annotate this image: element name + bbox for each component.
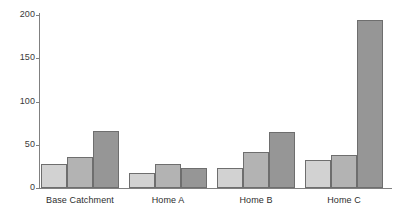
y-tick-mark <box>36 102 39 103</box>
y-tick-mark <box>36 188 39 189</box>
bar-group <box>217 13 295 188</box>
bar[interactable] <box>41 164 67 188</box>
bar-groups: Base CatchmentHome AHome BHome C <box>40 0 392 222</box>
bar[interactable] <box>181 168 207 188</box>
y-axis-tick-labels: 050100150200 <box>0 0 35 222</box>
y-tick-label: 0 <box>5 183 35 192</box>
bar[interactable] <box>243 152 269 188</box>
bar[interactable] <box>67 157 93 188</box>
bar[interactable] <box>217 168 243 188</box>
x-axis-category-label: Home C <box>279 196 409 205</box>
y-tick-mark <box>36 15 39 16</box>
bar-group-bars <box>305 13 383 188</box>
y-tick-mark <box>36 145 39 146</box>
bar[interactable] <box>331 155 357 188</box>
bar[interactable] <box>93 131 119 188</box>
bar[interactable] <box>269 132 295 188</box>
bar[interactable] <box>357 20 383 188</box>
y-tick-label: 50 <box>5 140 35 149</box>
bar[interactable] <box>129 173 155 188</box>
bar-group <box>129 13 207 188</box>
bar[interactable] <box>155 164 181 188</box>
bar-group <box>41 13 119 188</box>
bar-group-bars <box>129 13 207 188</box>
y-tick-label: 100 <box>5 97 35 106</box>
bar-chart: 050100150200 Base CatchmentHome AHome BH… <box>0 0 409 222</box>
bar-group-bars <box>217 13 295 188</box>
y-tick-mark <box>36 58 39 59</box>
bar[interactable] <box>305 160 331 188</box>
bar-group <box>305 13 383 188</box>
y-tick-label: 200 <box>5 10 35 19</box>
bar-group-bars <box>41 13 119 188</box>
y-tick-label: 150 <box>5 53 35 62</box>
